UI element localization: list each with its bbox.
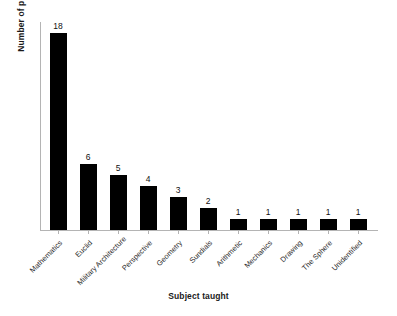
y-axis-title: Number of pupils <box>14 0 28 76</box>
bar-value-label: 5 <box>103 163 133 173</box>
bar-value-label: 4 <box>133 174 163 184</box>
bar-value-label: 1 <box>283 207 313 217</box>
bar-slot: 18 <box>43 22 73 230</box>
plot-area: 186543211111 <box>40 22 378 230</box>
bar[interactable] <box>290 219 307 230</box>
bar-value-label: 1 <box>223 207 253 217</box>
bar[interactable] <box>260 219 277 230</box>
x-axis-tick <box>268 231 269 234</box>
x-axis-tick <box>178 231 179 234</box>
bar-chart: Number of pupils 186543211111 Subject ta… <box>0 0 397 316</box>
bar-slot: 4 <box>133 22 163 230</box>
bar-slot: 1 <box>343 22 373 230</box>
bar-value-label: 6 <box>73 152 103 162</box>
bar[interactable] <box>140 186 157 230</box>
bar-slot: 1 <box>223 22 253 230</box>
bar[interactable] <box>110 175 127 230</box>
bar-value-label: 1 <box>253 207 283 217</box>
bar[interactable] <box>350 219 367 230</box>
x-axis-tick <box>58 231 59 234</box>
bar-slot: 1 <box>313 22 343 230</box>
bar-value-label: 1 <box>313 207 343 217</box>
x-axis-tick <box>298 231 299 234</box>
bar[interactable] <box>50 33 67 230</box>
x-axis-tick <box>88 231 89 234</box>
bar[interactable] <box>170 197 187 230</box>
bar[interactable] <box>230 219 247 230</box>
bar-slot: 5 <box>103 22 133 230</box>
bar-value-label: 3 <box>163 185 193 195</box>
bar-slot: 1 <box>283 22 313 230</box>
bar-value-label: 18 <box>43 21 73 31</box>
x-axis-title: Subject taught <box>0 291 397 301</box>
bar-slot: 1 <box>253 22 283 230</box>
bar[interactable] <box>320 219 337 230</box>
bar[interactable] <box>80 164 97 230</box>
bar[interactable] <box>200 208 217 230</box>
bar-slot: 3 <box>163 22 193 230</box>
x-axis-tick <box>358 231 359 234</box>
x-axis-tick <box>118 231 119 234</box>
bar-slot: 6 <box>73 22 103 230</box>
bar-slot: 2 <box>193 22 223 230</box>
bar-value-label: 1 <box>343 207 373 217</box>
bar-value-label: 2 <box>193 196 223 206</box>
x-axis-tick <box>208 231 209 234</box>
x-axis-tick <box>238 231 239 234</box>
x-axis-tick <box>328 231 329 234</box>
x-axis-tick <box>148 231 149 234</box>
